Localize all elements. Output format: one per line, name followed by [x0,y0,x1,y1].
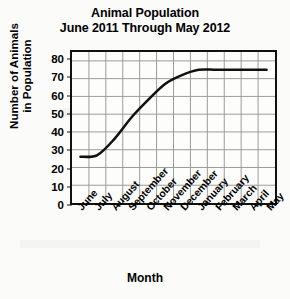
y-axis-tick-label: 20 [51,163,64,174]
y-axis-tick-label: 0 [58,200,64,211]
y-axis-tick-label: 40 [51,127,64,138]
y-axis-tick-label: 50 [51,108,64,119]
y-axis-title-line-2: in Population [20,1,33,151]
y-axis-labels: 01020304050607080 [40,50,68,205]
y-axis-tick-label: 80 [51,54,64,65]
y-axis-tick-label: 70 [51,72,64,83]
y-axis-title-line-1: Number of Animals [7,1,20,151]
y-axis-tick-label: 60 [51,90,64,101]
x-axis-labels: JuneJulyAugustSeptemberOctoberNovemberDe… [70,206,277,266]
x-axis-title: Month [0,271,290,285]
y-axis-tick-label: 30 [51,145,64,156]
chart-figure: Animal Population June 2011 Through May … [0,0,290,299]
y-axis-tick-label: 10 [51,181,64,192]
